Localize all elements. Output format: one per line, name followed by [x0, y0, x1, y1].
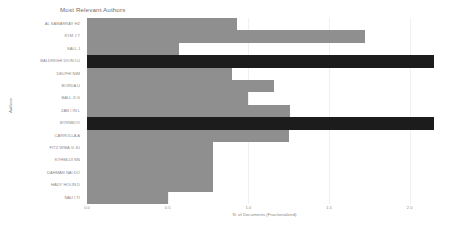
bar[interactable]	[87, 105, 290, 117]
y-tick-label: BYRNBOV	[60, 117, 80, 129]
y-tick-label: AL SAMARRAY HZ	[45, 18, 80, 30]
bar-row[interactable]	[87, 179, 442, 191]
y-tick-label: DELPHI NIM	[57, 68, 80, 80]
bar[interactable]	[87, 55, 434, 67]
bar-row[interactable]	[87, 18, 442, 30]
y-tick-label: ZAN I IN L	[61, 105, 80, 117]
y-tick-label: BALL JI G	[61, 92, 80, 104]
y-tick-label: NAU I TI	[64, 192, 80, 204]
y-tick-label: HADY HOLIN D	[51, 179, 80, 191]
y-axis-tick-labels: AL SAMARRAY HZKYM J TSALL JBALDRIGHI DIO…	[0, 18, 84, 204]
bar-row[interactable]	[87, 80, 442, 92]
chart-screenshot: Most Relevant Authors Authors AL SAMARRA…	[0, 0, 462, 228]
x-tick-label: 2.0	[407, 205, 413, 210]
bar-row[interactable]	[87, 117, 442, 129]
bar[interactable]	[87, 18, 237, 30]
bar-row[interactable]	[87, 154, 442, 166]
y-tick-label: BORDA U	[62, 80, 80, 92]
y-tick-label: CARROLLA A	[55, 130, 80, 142]
y-tick-label: FITZ WIBA G JU	[50, 142, 80, 154]
plot-area	[87, 18, 442, 204]
bar[interactable]	[87, 80, 274, 92]
y-tick-label: BALDRIGHI DION LU	[40, 55, 80, 67]
bar-row[interactable]	[87, 68, 442, 80]
bar-row[interactable]	[87, 43, 442, 55]
bar[interactable]	[87, 167, 213, 179]
y-tick-label: KYM J T	[64, 30, 80, 42]
bar[interactable]	[87, 142, 213, 154]
bar[interactable]	[87, 68, 232, 80]
bar[interactable]	[87, 130, 289, 142]
x-tick-label: 1.5	[326, 205, 332, 210]
bar[interactable]	[87, 30, 365, 42]
bar[interactable]	[87, 92, 248, 104]
bars-layer	[87, 18, 442, 204]
bar[interactable]	[87, 154, 213, 166]
y-tick-label: KYHMLUI NN	[55, 154, 80, 166]
bar-row[interactable]	[87, 55, 442, 67]
bar-row[interactable]	[87, 192, 442, 204]
bar-row[interactable]	[87, 105, 442, 117]
y-tick-label: DAHMAN NAI DO	[47, 167, 80, 179]
bar[interactable]	[87, 117, 434, 129]
bar[interactable]	[87, 192, 168, 204]
bar[interactable]	[87, 43, 179, 55]
x-axis-title: N. of Documents (Fractionalized)	[87, 212, 442, 217]
bar[interactable]	[87, 179, 213, 191]
bar-row[interactable]	[87, 130, 442, 142]
chart-title: Most Relevant Authors	[60, 6, 125, 13]
bar-row[interactable]	[87, 92, 442, 104]
x-tick-label: 0.0	[84, 205, 90, 210]
bar-row[interactable]	[87, 167, 442, 179]
y-tick-label: SALL J	[67, 43, 80, 55]
x-tick-label: 1.0	[246, 205, 252, 210]
x-tick-label: 0.5	[165, 205, 171, 210]
bar-row[interactable]	[87, 30, 442, 42]
bar-row[interactable]	[87, 142, 442, 154]
